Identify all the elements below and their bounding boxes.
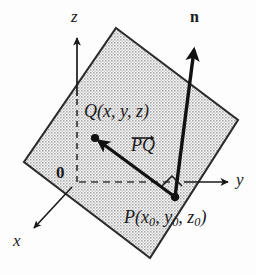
point-q-label-suffix: ) — [143, 101, 149, 121]
x-axis-label: x — [13, 232, 21, 249]
point-q-label: Q(x, y, z) — [84, 102, 149, 120]
point-p-dot — [171, 193, 180, 202]
x-axis-line — [34, 187, 72, 228]
point-p-label-suffix: ) — [200, 207, 206, 227]
point-q-label-sep1: , — [111, 101, 120, 121]
vector-pq-label-p: P — [131, 135, 142, 155]
point-p-label-sep1: , — [155, 207, 164, 227]
point-p-label-x: x — [141, 207, 149, 227]
point-q-label-z: z — [136, 101, 143, 121]
vector-pq-label-text: PQ — [131, 136, 155, 154]
point-q-label-x: x — [103, 101, 111, 121]
point-q-label-y: y — [120, 101, 127, 121]
vector-pq-label: PQ — [131, 136, 155, 154]
plane-normal-vector-figure: z y x 0 n Q(x, y, z) PQ P(x0, y0, z0) — [0, 0, 256, 275]
point-q-dot — [91, 134, 99, 142]
point-p-label-prefix: P( — [124, 207, 141, 227]
z-axis-label: z — [71, 8, 78, 25]
figure-canvas — [0, 0, 256, 275]
normal-vector-label: n — [190, 9, 199, 25]
point-p-label-y: y — [164, 207, 172, 227]
point-q-label-prefix: Q( — [84, 101, 103, 121]
origin-label: 0 — [56, 164, 65, 181]
point-q-label-sep2: , — [127, 101, 136, 121]
point-p-label-sep2: , — [178, 207, 187, 227]
point-p-label: P(x0, y0, z0) — [124, 208, 206, 229]
vector-pq-label-q: Q — [142, 135, 155, 155]
y-axis-label: y — [236, 171, 244, 188]
